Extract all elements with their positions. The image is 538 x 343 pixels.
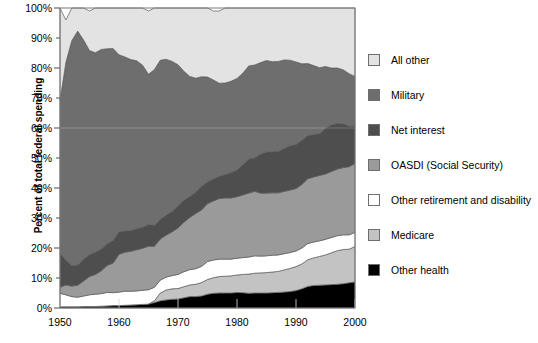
x-tick-label-1990: 1990 — [273, 316, 319, 328]
legend-item-label: Other retirement and disability — [391, 194, 531, 206]
legend-swatch-icon — [368, 124, 380, 136]
x-tick-label-1950: 1950 — [37, 316, 83, 328]
legend-item-label: Other health — [391, 264, 449, 276]
legend-swatch-icon — [368, 54, 380, 66]
legend-item-military[interactable]: Military — [368, 77, 536, 112]
y-tick-label-10%: 10% — [8, 273, 52, 283]
legend-item-label: All other — [391, 54, 430, 66]
legend-item-other-health[interactable]: Other health — [368, 252, 536, 287]
legend-swatch-icon — [368, 194, 380, 206]
legend-item-medicare[interactable]: Medicare — [368, 217, 536, 252]
y-tick-label-30%: 30% — [8, 213, 52, 223]
legend-item-all-other[interactable]: All other — [368, 42, 536, 77]
y-tick-label-50%: 50% — [8, 153, 52, 163]
y-tick-label-0%: 0% — [8, 303, 52, 313]
legend-swatch-icon — [368, 159, 380, 171]
x-tick-label-1980: 1980 — [214, 316, 260, 328]
chart-figure: Percent of total federal spending 0%10%2… — [0, 0, 538, 343]
legend-swatch-icon — [368, 89, 380, 101]
y-tick-label-100%: 100% — [8, 3, 52, 13]
x-tick-label-1970: 1970 — [155, 316, 201, 328]
legend-item-oasdi-social-security[interactable]: OASDI (Social Security) — [368, 147, 536, 182]
legend-item-label: Net interest — [391, 124, 445, 136]
legend-item-label: Military — [391, 89, 424, 101]
legend-item-label: OASDI (Social Security) — [391, 159, 503, 171]
legend-item-net-interest[interactable]: Net interest — [368, 112, 536, 147]
y-tick-label-20%: 20% — [8, 243, 52, 253]
y-tick-label-90%: 90% — [8, 33, 52, 43]
y-tick-label-70%: 70% — [8, 93, 52, 103]
y-tick-label-80%: 80% — [8, 63, 52, 73]
y-tick-label-40%: 40% — [8, 183, 52, 193]
y-tick-label-60%: 60% — [8, 123, 52, 133]
chart-legend: All otherMilitaryNet interestOASDI (Soci… — [368, 42, 536, 287]
legend-item-label: Medicare — [391, 229, 434, 241]
legend-swatch-icon — [368, 229, 380, 241]
x-tick-label-2000: 2000 — [332, 316, 378, 328]
legend-item-other-retirement-and-disability[interactable]: Other retirement and disability — [368, 182, 536, 217]
legend-swatch-icon — [368, 264, 380, 276]
x-tick-label-1960: 1960 — [96, 316, 142, 328]
